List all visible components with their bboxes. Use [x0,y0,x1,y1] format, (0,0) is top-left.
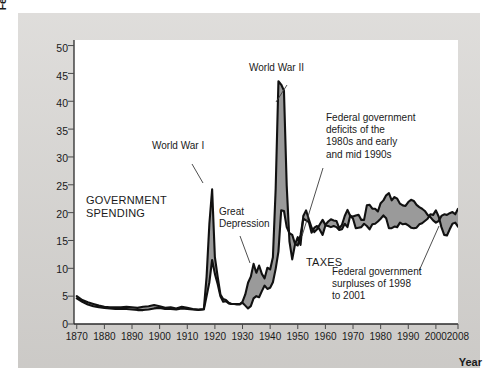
y-tick-45: 45 [42,70,68,82]
y-tick-20: 20 [42,208,68,220]
annotation-world-war-2: World War II [249,62,304,74]
plot-area: 0 5 10 15 20 25 30 35 40 45 50 1870 1880… [74,40,458,324]
y-tick-50: 50 [42,42,68,54]
y-axis-label: Federal government spending and tax coll… [0,0,26,34]
y-tick-5: 5 [42,290,68,302]
annotation-deficits: Federal government deficits of the 1980s… [326,112,416,161]
chart-figure: Federal government spending and tax coll… [0,0,504,390]
y-tick-30: 30 [42,152,68,164]
y-axis-label-line2: (percent of total output) [9,0,22,34]
annotation-great-depression: Great Depression [219,206,270,230]
y-tick-40: 40 [42,97,68,109]
y-tick-10: 10 [42,263,68,275]
annotation-government-spending: GOVERNMENT SPENDING [86,194,167,220]
annotation-world-war-1: World War I [152,140,204,152]
y-tick-0: 0 [42,318,68,330]
y-tick-25: 25 [42,180,68,192]
x-axis-label: Year [459,356,482,368]
y-tick-35: 35 [42,125,68,137]
annotation-surpluses: Federal government surpluses of 1998 to … [332,266,422,303]
y-tick-15: 15 [42,235,68,247]
y-axis-label-line1: Federal government spending and tax coll… [0,0,9,34]
